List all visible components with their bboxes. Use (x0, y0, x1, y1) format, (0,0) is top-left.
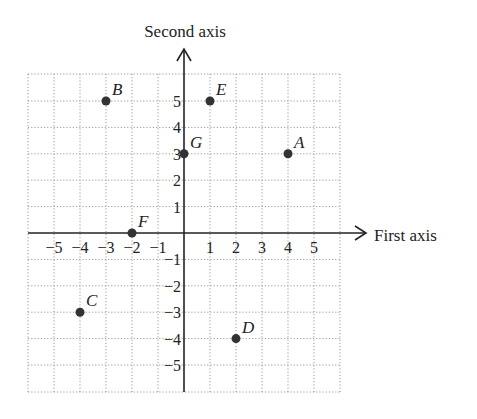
point-label: F (137, 212, 149, 231)
y-tick-label: 4 (173, 119, 181, 136)
point-label: B (112, 80, 123, 99)
point-b: B (102, 80, 124, 106)
x-tick-label: −3 (97, 239, 114, 256)
point-a: A (284, 133, 306, 159)
x-tick-label: 2 (232, 239, 240, 256)
point-marker (206, 97, 215, 106)
y-tick-label: 5 (173, 93, 181, 110)
y-tick-label: −2 (164, 278, 181, 295)
point-d: D (232, 318, 256, 344)
y-tick-label: −1 (164, 251, 181, 268)
point-label: E (215, 80, 227, 99)
point-marker (102, 97, 111, 106)
x-tick-label: 3 (258, 239, 266, 256)
x-tick-label: −5 (45, 239, 62, 256)
x-tick-label: −4 (71, 239, 88, 256)
x-tick-label: 4 (284, 239, 292, 256)
point-label: A (293, 133, 305, 152)
point-marker (180, 149, 189, 158)
point-marker (128, 229, 137, 238)
y-tick-label: 2 (173, 172, 181, 189)
point-label: D (241, 318, 255, 337)
y-tick-label: −3 (164, 304, 181, 321)
y-tick-label: 1 (173, 199, 181, 216)
x-tick-label: 1 (206, 239, 214, 256)
point-marker (284, 149, 293, 158)
x-tick-label: 5 (310, 239, 318, 256)
point-marker (76, 308, 85, 317)
point-label: G (190, 133, 202, 152)
axes (28, 49, 366, 392)
point-label: C (86, 291, 98, 310)
point-marker (232, 334, 241, 343)
y-axis-label: Second axis (144, 22, 226, 41)
point-e: E (206, 80, 228, 106)
data-points: ABCDEFG (76, 80, 306, 343)
coordinate-plane: −5−4−3−2−11234554321−1−2−3−4−5 ABCDEFG F… (0, 0, 477, 419)
x-axis-label: First axis (374, 226, 437, 245)
y-tick-label: −5 (164, 357, 181, 374)
point-g: G (180, 133, 203, 159)
point-c: C (76, 291, 99, 317)
x-tick-label: −2 (123, 239, 140, 256)
y-tick-label: −4 (164, 331, 181, 348)
